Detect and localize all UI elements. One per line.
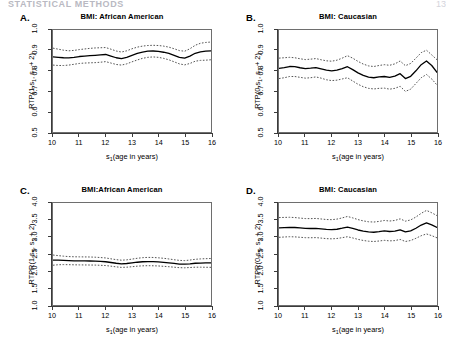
panel-d-xtick [304, 306, 305, 310]
panel-c-xtick-label: 14 [155, 311, 163, 320]
panel-d-xlabel: s1(age in years) [278, 325, 438, 334]
panel-b-xtick-label: 10 [274, 138, 282, 147]
panel-b-xtick-label: 15 [407, 138, 415, 147]
panel-b-xtick [384, 133, 385, 137]
panel-d-xtick [278, 306, 279, 310]
panel-b-xtick-label: 16 [434, 138, 442, 147]
panel-c-xtick [105, 306, 106, 310]
panel-d-svg [279, 203, 437, 305]
panel-a-xtick-label: 16 [208, 138, 216, 147]
panel-d-xtick [438, 306, 439, 310]
panel-a-ytick-label: 1.0 [30, 18, 39, 40]
panel-c-xtick-label: 16 [208, 311, 216, 320]
panel-a-xtick [52, 133, 53, 137]
panel-b-ytick-label: 0.5 [256, 122, 265, 144]
panel-b-xtick-label: 12 [327, 138, 335, 147]
panel-d-xtick [331, 306, 332, 310]
panel-c-series-upper-confidence-band [53, 255, 211, 261]
panel-a-ytick-label: 0.7 [30, 80, 39, 102]
panel-c-xtick [52, 306, 53, 310]
panel-a-svg [53, 30, 211, 132]
panel-a-xtick-label: 15 [181, 138, 189, 147]
panel-c-xtick-label: 11 [75, 311, 82, 320]
panel-a-xtick [132, 133, 133, 137]
panel-b-xtick [304, 133, 305, 137]
panel-a-series-estimate [53, 51, 211, 59]
panel-b-ytick-label: 0.6 [256, 101, 265, 123]
panel-a-ytick-label: 0.5 [30, 122, 39, 144]
panel-c-xlabel: s1(age in years) [52, 325, 212, 334]
panel-b-ytick-label: 1.0 [256, 18, 265, 40]
panel-d: D. BMI: Caucasian RTPR(0,s1, s1 + 2) 1.0… [226, 182, 452, 355]
panel-a-series-lower-confidence-band [53, 57, 211, 66]
panel-c-plot [52, 202, 212, 306]
panel-c-xtick [78, 306, 79, 310]
running-head: STATISTICAL METHODS [8, 0, 308, 7]
panel-c-xtick [185, 306, 186, 310]
panel-c-series-lower-confidence-band [53, 265, 211, 268]
panel-d-series-upper-confidence-band [279, 210, 437, 222]
panel-d-xtick-label: 11 [301, 311, 308, 320]
panel-c-ytick-label: 4.0 [30, 191, 39, 213]
panel-d-xtick [411, 306, 412, 310]
panel-c-xtick-label: 13 [128, 311, 136, 320]
panel-b-xaxis: 10111213141516 [278, 133, 438, 139]
panel-c-xtick [132, 306, 133, 310]
panel-b-xlabel: s1(age in years) [278, 152, 438, 161]
panel-d-series-estimate [279, 223, 437, 232]
panel-b-ytick-label: 0.7 [256, 80, 265, 102]
panel-c-xtick-label: 10 [48, 311, 56, 320]
panel-b-xtick [411, 133, 412, 137]
panel-d-xtick-label: 16 [434, 311, 442, 320]
panel-b-xtick [358, 133, 359, 137]
panel-a-xtick [105, 133, 106, 137]
panel-d-ytick-label: 4.0 [256, 191, 265, 213]
panel-d-xaxis: 10111213141516 [278, 306, 438, 312]
panel-a-ytick-label: 0.8 [30, 59, 39, 81]
panel-a: A. BMI: African American RTP(1,s1, s1 + … [0, 9, 226, 182]
panel-d-xtick [384, 306, 385, 310]
panel-a-xtick [212, 133, 213, 137]
panel-a-xtick [158, 133, 159, 137]
panel-d-xtick-label: 15 [407, 311, 415, 320]
panel-c: C. BMI:African American RTPR(1,s1, s1 + … [0, 182, 226, 355]
panel-d-xtick-label: 14 [381, 311, 389, 320]
panel-c-xaxis: 10111213141516 [52, 306, 212, 312]
figure-panel-grid: A. BMI: African American RTP(1,s1, s1 + … [0, 9, 452, 355]
panel-c-svg [53, 203, 211, 305]
panel-b-plot [278, 29, 438, 133]
panel-b-xtick [438, 133, 439, 137]
panel-a-series-upper-confidence-band [53, 42, 211, 52]
panel-a-xtick [78, 133, 79, 137]
panel-b-series-estimate [279, 61, 437, 79]
panel-a-xtick-label: 13 [128, 138, 136, 147]
panel-d-xtick-label: 12 [327, 311, 335, 320]
panel-a-xtick [185, 133, 186, 137]
panel-c-xtick [212, 306, 213, 310]
panel-b-svg [279, 30, 437, 132]
panel-a-xlabel: s1(age in years) [52, 152, 212, 161]
panel-d-plot [278, 202, 438, 306]
panel-d-xtick [358, 306, 359, 310]
panel-a-ytick-label: 0.9 [30, 38, 39, 60]
panel-a-xtick-label: 14 [155, 138, 163, 147]
panel-a-ytick-label: 0.6 [30, 101, 39, 123]
panel-b: B. BMI: Caucasian RTP(0,s1, s1 + 2) 0.50… [226, 9, 452, 182]
panel-a-xaxis: 10111213141516 [52, 133, 212, 139]
panel-d-xtick-label: 10 [274, 311, 282, 320]
panel-b-series-upper-confidence-band [279, 50, 437, 66]
panel-b-series-lower-confidence-band [279, 74, 437, 91]
panel-b-xtick-label: 14 [381, 138, 389, 147]
panel-b-xtick-label: 13 [354, 138, 362, 147]
panel-b-ytick-label: 0.8 [256, 59, 265, 81]
panel-b-ytick-label: 0.9 [256, 38, 265, 60]
panel-c-xtick-label: 12 [101, 311, 109, 320]
panel-a-xtick-label: 12 [101, 138, 109, 147]
panel-b-xtick [331, 133, 332, 137]
panel-c-xtick [158, 306, 159, 310]
panel-d-series-lower-confidence-band [279, 234, 437, 242]
panel-c-xtick-label: 15 [181, 311, 189, 320]
panel-b-xtick-label: 11 [301, 138, 308, 147]
panel-a-plot [52, 29, 212, 133]
panel-a-xtick-label: 10 [48, 138, 56, 147]
